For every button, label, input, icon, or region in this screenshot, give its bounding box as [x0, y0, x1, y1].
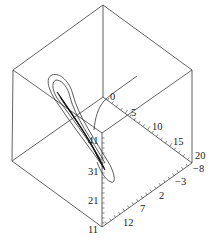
z-axis-ticks	[107, 98, 189, 160]
3d-plot: 0 5 10 15 20 12 7 2 −3 −8 41 31 21 11	[0, 0, 210, 243]
tick-label-z5: 5	[131, 107, 136, 118]
tick-label-y2: 2	[159, 190, 164, 201]
z-axis-labels: 0 5 10 15 20	[110, 91, 206, 161]
y-axis-ticks	[105, 164, 188, 224]
tick-label-z15: 15	[173, 136, 184, 147]
tick-label-x21: 21	[88, 195, 99, 206]
tick-label-ym8: −8	[193, 163, 204, 174]
tick-label-ym3: −3	[175, 176, 186, 187]
cube-box	[12, 5, 192, 227]
tick-label-x31: 31	[88, 166, 99, 177]
tick-label-x11: 11	[88, 224, 98, 235]
tick-label-z20: 20	[195, 150, 206, 161]
tick-label-x41: 41	[88, 135, 99, 146]
tick-label-y12: 12	[123, 217, 134, 228]
y-axis-labels: 12 7 2 −3 −8	[123, 163, 204, 228]
tick-label-z10: 10	[152, 121, 163, 132]
tick-label-z0: 0	[110, 91, 115, 102]
tick-label-y7: 7	[140, 203, 145, 214]
